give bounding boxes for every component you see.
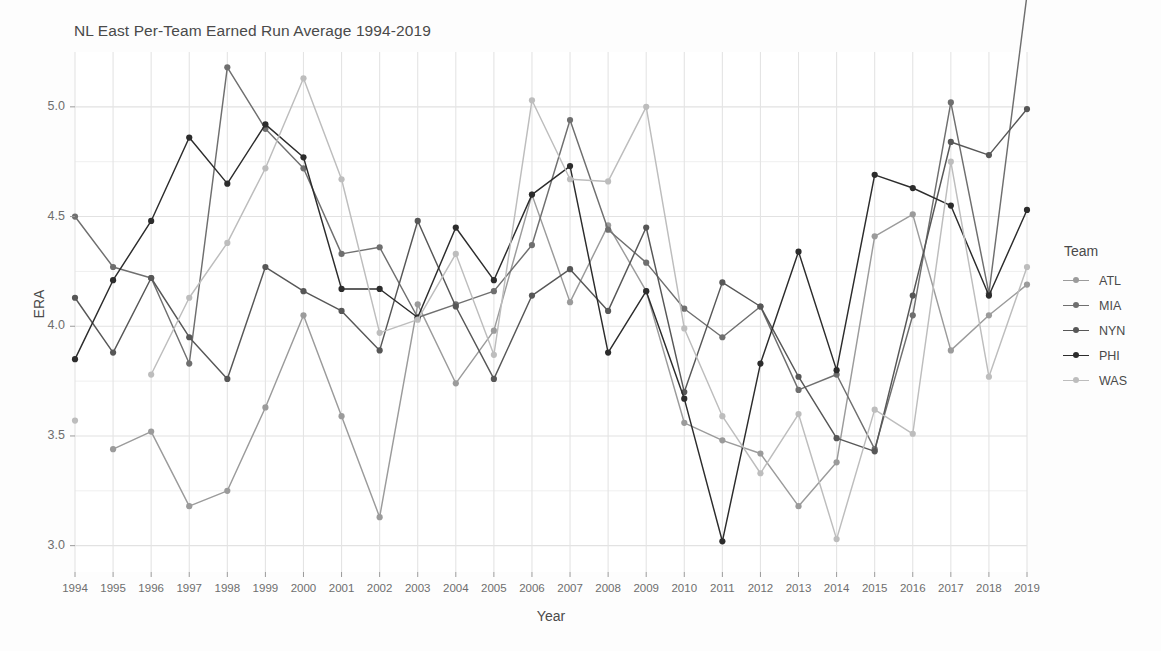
data-point [567, 163, 573, 169]
data-point [757, 450, 763, 456]
x-tick-label: 2010 [664, 582, 704, 594]
data-point [1024, 106, 1030, 112]
legend-item-label: ATL [1099, 274, 1121, 288]
x-tick-label: 1999 [245, 582, 285, 594]
x-tick-label: 2013 [779, 582, 819, 594]
data-point [1024, 281, 1030, 287]
data-point [834, 367, 840, 373]
legend-key-dot [1073, 352, 1079, 358]
data-point [300, 312, 306, 318]
data-point [148, 275, 154, 281]
data-point [681, 325, 687, 331]
data-point [377, 286, 383, 292]
data-point [338, 176, 344, 182]
data-point [529, 242, 535, 248]
data-point [224, 64, 230, 70]
data-point [453, 303, 459, 309]
data-point [148, 371, 154, 377]
data-point [948, 139, 954, 145]
x-tick-label: 2016 [893, 582, 933, 594]
data-point [224, 181, 230, 187]
x-tick-label: 2014 [817, 582, 857, 594]
data-point [605, 178, 611, 184]
data-point [453, 224, 459, 230]
data-point [110, 349, 116, 355]
data-point [643, 260, 649, 266]
data-point [300, 75, 306, 81]
x-tick-label: 2011 [702, 582, 742, 594]
x-tick-label: 2009 [626, 582, 666, 594]
data-point [948, 202, 954, 208]
data-point [186, 334, 192, 340]
x-tick-label: 2001 [322, 582, 362, 594]
data-point [795, 387, 801, 393]
x-tick-label: 2002 [360, 582, 400, 594]
data-point [986, 292, 992, 298]
data-point [719, 538, 725, 544]
data-point [72, 418, 78, 424]
legend-item-was[interactable]: WAS [1063, 368, 1127, 393]
data-point [224, 240, 230, 246]
chart-canvas: NL East Per-Team Earned Run Average 1994… [0, 0, 1161, 651]
data-point [186, 360, 192, 366]
data-point [110, 264, 116, 270]
data-point [681, 396, 687, 402]
data-point [948, 347, 954, 353]
data-point [719, 413, 725, 419]
y-tick-label: 5.0 [25, 99, 65, 113]
legend-key-icon [1063, 322, 1089, 340]
x-axis-title: Year [75, 608, 1027, 624]
x-tick-label: 2003 [398, 582, 438, 594]
data-point [491, 328, 497, 334]
data-point [757, 360, 763, 366]
data-point [948, 159, 954, 165]
legend-item-mia[interactable]: MIA [1063, 293, 1127, 318]
data-point [757, 303, 763, 309]
legend-key-dot [1073, 302, 1079, 308]
data-point [910, 292, 916, 298]
data-point [491, 352, 497, 358]
data-point [910, 211, 916, 217]
data-point [567, 266, 573, 272]
data-point [605, 308, 611, 314]
data-point [872, 448, 878, 454]
data-point [681, 306, 687, 312]
legend: Team ATLMIANYNPHIWAS [1063, 243, 1127, 393]
data-point [719, 279, 725, 285]
data-point [491, 288, 497, 294]
data-point [338, 251, 344, 257]
legend-item-atl[interactable]: ATL [1063, 268, 1127, 293]
data-point [453, 380, 459, 386]
data-point [834, 459, 840, 465]
data-point [415, 317, 421, 323]
data-point [148, 218, 154, 224]
x-tick-label: 1997 [169, 582, 209, 594]
data-point [529, 192, 535, 198]
data-point [643, 224, 649, 230]
data-point [338, 286, 344, 292]
x-tick-label: 1995 [93, 582, 133, 594]
x-tick-label: 2017 [931, 582, 971, 594]
data-point [643, 288, 649, 294]
data-point [948, 99, 954, 105]
legend-items: ATLMIANYNPHIWAS [1063, 268, 1127, 393]
data-point [834, 536, 840, 542]
data-point [910, 312, 916, 318]
data-point [910, 185, 916, 191]
legend-key-icon [1063, 272, 1089, 290]
data-point [110, 277, 116, 283]
data-point [72, 356, 78, 362]
x-tick-label: 2005 [474, 582, 514, 594]
data-point [529, 292, 535, 298]
legend-key-dot [1073, 327, 1079, 333]
plot-area [0, 0, 1161, 651]
data-point [834, 435, 840, 441]
legend-item-phi[interactable]: PHI [1063, 343, 1127, 368]
y-tick-label: 3.0 [25, 538, 65, 552]
data-point [795, 249, 801, 255]
data-point [567, 117, 573, 123]
data-point [757, 470, 763, 476]
data-point [300, 288, 306, 294]
legend-item-nyn[interactable]: NYN [1063, 318, 1127, 343]
data-point [377, 244, 383, 250]
